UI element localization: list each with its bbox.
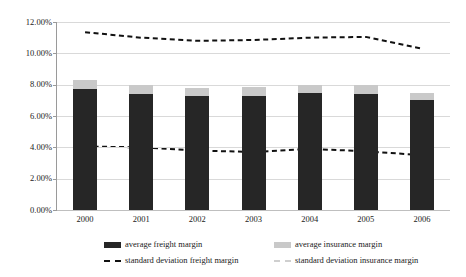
bar-segment-insurance (185, 88, 209, 97)
bar-group (410, 22, 434, 210)
bar-group (129, 22, 153, 210)
bar-segment-insurance (410, 93, 434, 100)
bar-group (73, 22, 97, 210)
bar-segment-insurance (298, 85, 322, 94)
bar-segment-insurance (242, 87, 266, 96)
x-axis-tick-label: 2005 (336, 214, 396, 224)
bar-segment-freight (129, 94, 153, 210)
x-axis-tick-label: 2006 (392, 214, 452, 224)
bar-segment-freight (410, 100, 434, 210)
x-axis-tick-label: 2000 (55, 214, 115, 224)
bar-segment-insurance (354, 85, 378, 94)
bar-group (185, 22, 209, 210)
x-axis-tick-label: 2003 (224, 214, 284, 224)
y-axis-tick-label: 6.00% (0, 112, 52, 121)
legend-item-label: standard deviation freight margin (125, 255, 238, 266)
x-axis-tick-label: 2004 (280, 214, 340, 224)
legend-item[interactable]: average freight margin (104, 238, 202, 251)
y-axis-tick-label: 10.00% (0, 49, 52, 58)
bar-segment-freight (298, 93, 322, 210)
legend-item-label: average insurance margin (295, 239, 382, 250)
bar-group (354, 22, 378, 210)
plot-area (57, 22, 450, 210)
bar-group (242, 22, 266, 210)
chart-figure: 0.00%2.00%4.00%6.00%8.00%10.00%12.00% 20… (0, 0, 466, 277)
x-axis-tick-label: 2001 (111, 214, 171, 224)
legend-item[interactable]: standard deviation insurance margin (274, 254, 418, 267)
legend-item[interactable]: standard deviation freight margin (104, 254, 238, 267)
bar-segment-insurance (129, 85, 153, 94)
bar-segment-freight (185, 96, 209, 210)
bar-segment-insurance (73, 80, 97, 89)
bar-segment-freight (242, 96, 266, 210)
bar-group (298, 22, 322, 210)
legend-item-label: standard deviation insurance margin (295, 255, 418, 266)
y-axis-tick-label: 12.00% (0, 18, 52, 27)
x-axis-tick-label: 2002 (167, 214, 227, 224)
y-axis-tick-label: 2.00% (0, 174, 52, 183)
legend-item[interactable]: average insurance margin (274, 238, 382, 251)
y-axis-tick-label: 8.00% (0, 80, 52, 89)
legend-swatch-solid-dark-square-icon (104, 242, 121, 248)
y-axis-tick-label: 4.00% (0, 143, 52, 152)
gridline (57, 210, 450, 211)
legend-item-label: average freight margin (125, 239, 202, 250)
y-axis-tick-label: 0.00% (0, 206, 52, 215)
chart-legend: average freight marginaverage insurance … (104, 238, 444, 270)
legend-swatch-dashed-dark-line-icon (104, 260, 121, 262)
legend-swatch-solid-light-square-icon (274, 242, 291, 248)
bar-segment-freight (73, 89, 97, 210)
legend-swatch-dashed-light-line-icon (274, 260, 291, 262)
bar-segment-freight (354, 94, 378, 210)
